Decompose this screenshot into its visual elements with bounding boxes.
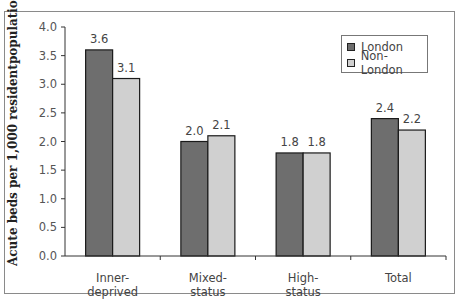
y-axis-label: Acute beds per 1,000 residentpopulation (6, 26, 20, 266)
legend-item-non-london: Non-London (347, 55, 427, 71)
y-tick-label: 3.0 (39, 77, 57, 91)
x-category-label: status (190, 285, 225, 299)
value-label: 1.8 (307, 135, 325, 149)
legend-swatch-london (347, 43, 355, 51)
y-tick-label: 4.0 (39, 20, 57, 34)
x-category-label: status (285, 285, 320, 299)
bar-london (181, 142, 208, 257)
y-tick-label: 1.5 (39, 163, 57, 177)
bar-non-london (208, 136, 235, 256)
value-label: 3.6 (90, 32, 108, 46)
x-category-label: Total (384, 271, 412, 285)
y-tick-label: 2.5 (39, 106, 57, 120)
value-label: 2.1 (212, 118, 230, 132)
bar-non-london (398, 130, 425, 256)
y-tick-label: 0.5 (39, 220, 57, 234)
x-category-label: High- (288, 271, 319, 285)
value-label: 1.8 (280, 135, 298, 149)
x-category-label: Mixed- (189, 271, 227, 285)
y-tick-label: 1.0 (39, 192, 57, 206)
x-category-label: Inner- (96, 271, 129, 285)
legend: London Non-London (341, 35, 428, 73)
bar-non-london (113, 79, 140, 256)
value-label: 2.2 (403, 112, 421, 126)
y-tick-label: 2.0 (39, 135, 57, 149)
x-category-label: deprived (87, 285, 138, 299)
legend-swatch-non-london (347, 59, 355, 67)
y-tick-label: 0.0 (39, 249, 57, 263)
value-label: 2.4 (376, 101, 394, 115)
bar-non-london (303, 153, 330, 256)
bar-london (371, 119, 398, 256)
bar-london (276, 153, 303, 256)
value-label: 3.1 (117, 61, 135, 75)
bar-london (86, 50, 113, 256)
value-label: 2.0 (185, 124, 203, 138)
legend-label-non-london: Non-London (361, 49, 427, 77)
y-tick-label: 3.5 (39, 49, 57, 63)
